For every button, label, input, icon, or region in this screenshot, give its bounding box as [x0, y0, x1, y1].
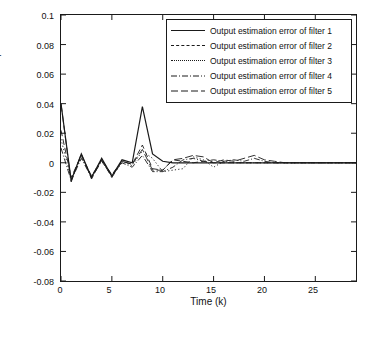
- legend-label: Output estimation error of filter 4: [210, 71, 332, 81]
- legend-line-sample-3: [171, 56, 205, 66]
- x-tick-label: 0: [50, 285, 70, 295]
- y-tick-label: 0.1: [22, 11, 54, 21]
- series-line: [61, 104, 356, 182]
- legend-label: Output estimation error of filter 1: [210, 26, 332, 36]
- y-tick-label: 0: [22, 159, 54, 169]
- series-line: [61, 139, 356, 179]
- y-tick-label: 0.02: [22, 129, 54, 139]
- y-tick-label: 0.06: [22, 70, 54, 80]
- legend-label: Output estimation error of filter 3: [210, 56, 332, 66]
- y-tick-label: -0.02: [22, 188, 54, 198]
- x-tick-label: 20: [252, 285, 272, 295]
- y-tick-label: 0.04: [22, 100, 54, 110]
- x-tick-label: 10: [150, 285, 170, 295]
- legend-item: Output estimation error of filter 4: [171, 68, 347, 83]
- legend-line-sample-1: [171, 26, 205, 36]
- y-tick-label: -0.06: [22, 247, 54, 257]
- legend-label: Output estimation error of filter 5: [210, 86, 332, 96]
- y-tick-label: -0.04: [22, 218, 54, 228]
- x-tick-label: 25: [303, 285, 323, 295]
- x-axis-label: Time (k): [60, 296, 357, 307]
- legend-line-sample-5: [171, 86, 205, 96]
- legend-item: Output estimation error of filter 3: [171, 53, 347, 68]
- legend-item: Output estimation error of filter 2: [171, 38, 347, 53]
- dashdot-sample-icon: [171, 71, 205, 81]
- x-tick-label: 15: [201, 285, 221, 295]
- y-tick-label: 0.08: [22, 41, 54, 51]
- legend-line-sample-4: [171, 71, 205, 81]
- data-series-group: [61, 104, 356, 182]
- figure: Output estimation errors -0.08 -0.06 -0.…: [0, 0, 381, 342]
- legend-label: Output estimation error of filter 2: [210, 41, 332, 51]
- legend: Output estimation error of filter 1 Outp…: [166, 19, 352, 103]
- longdash-sample-icon: [171, 86, 205, 96]
- series-line: [61, 104, 356, 181]
- x-tick-label: 5: [99, 285, 119, 295]
- legend-item: Output estimation error of filter 1: [171, 23, 347, 38]
- legend-item: Output estimation error of filter 5: [171, 83, 347, 98]
- series-line: [61, 130, 356, 177]
- y-axis-label: Output estimation errors: [0, 0, 1, 108]
- legend-line-sample-2: [171, 41, 205, 51]
